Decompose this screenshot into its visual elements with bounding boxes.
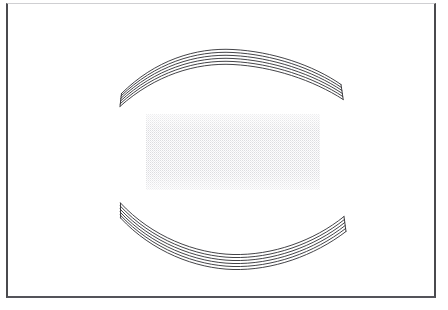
lower-band-line-4	[120, 212, 345, 264]
lower-band-line-6	[121, 218, 346, 270]
lower-curved-band	[120, 203, 346, 270]
figure-root	[0, 0, 448, 310]
stipple-fade-overlay	[146, 114, 320, 190]
stippled-rectangle-group	[146, 114, 320, 190]
figure-drawing-canvas	[0, 0, 448, 310]
upper-curved-band	[120, 49, 343, 106]
lower-band-line-5	[120, 215, 345, 267]
upper-band-right-end-cap	[341, 85, 343, 100]
